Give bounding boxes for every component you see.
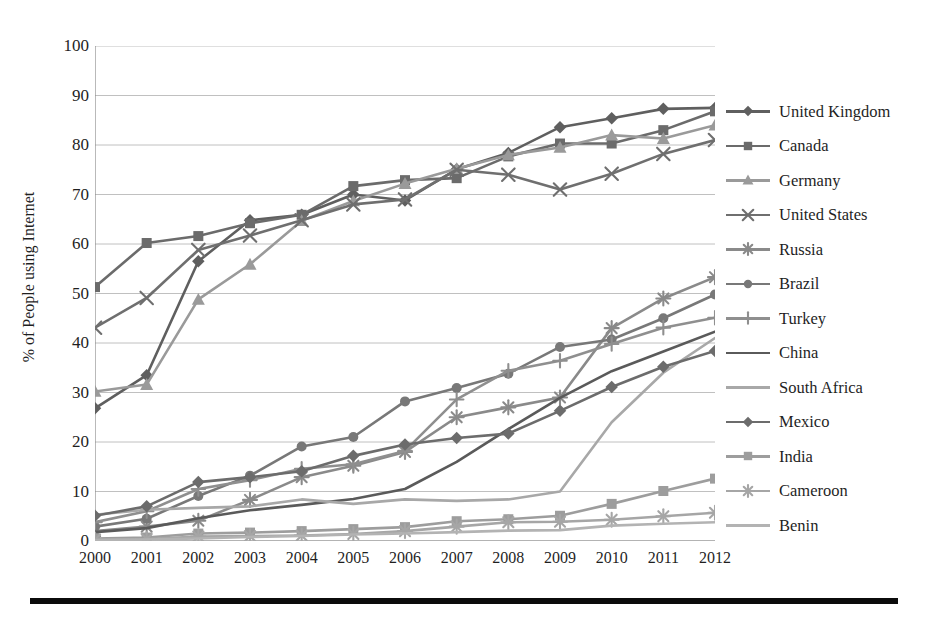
legend-item-mexico[interactable]: Mexico	[726, 405, 930, 440]
x-tick-label: 2008	[480, 548, 536, 568]
data-point-circle	[348, 432, 358, 442]
legend-item-label: Turkey	[779, 310, 826, 327]
x-tick-label: 2004	[274, 548, 330, 568]
legend-marker-star-icon	[739, 240, 757, 258]
data-point-diamond	[605, 381, 618, 394]
x-tick-label: 2009	[532, 548, 588, 568]
legend-item-label: United Kingdom	[779, 103, 890, 120]
data-point-circle	[297, 441, 307, 451]
data-point-square	[710, 106, 715, 116]
legend-item-brazil[interactable]: Brazil	[726, 267, 930, 302]
plot-area	[95, 46, 715, 541]
x-tick-label: 2012	[687, 548, 743, 568]
data-point-square	[607, 499, 617, 509]
legend-swatch-icon	[726, 139, 770, 153]
legend-item-south-africa[interactable]: South Africa	[726, 370, 930, 405]
legend-item-russia[interactable]: Russia	[726, 232, 930, 267]
data-point-square	[95, 282, 100, 292]
data-point-plus	[553, 354, 567, 368]
legend-marker-circle-icon	[739, 275, 757, 293]
legend-swatch-icon	[726, 277, 770, 291]
y-tick-label: 100	[43, 37, 89, 54]
x-tick-label: 2006	[377, 548, 433, 568]
data-point-square	[245, 218, 255, 228]
data-point-star	[708, 270, 715, 284]
data-point-triangle	[709, 119, 716, 131]
data-point-plus	[742, 313, 753, 324]
legend-item-label: Russia	[779, 241, 823, 258]
legend-item-label: Brazil	[779, 275, 819, 292]
legend-marker-x-icon	[739, 206, 757, 224]
data-point-diamond	[709, 345, 715, 358]
legend-marker-plus-icon	[739, 309, 757, 327]
data-point-circle	[555, 342, 565, 352]
data-point-square	[744, 142, 752, 150]
series-polyline	[95, 140, 715, 328]
legend-swatch-icon	[726, 208, 770, 222]
legend-item-benin[interactable]: Benin	[726, 508, 930, 543]
legend-item-label: Canada	[779, 137, 828, 154]
x-tick-label: 2000	[67, 548, 123, 568]
legend-item-canada[interactable]: Canada	[726, 129, 930, 164]
data-point-star	[501, 400, 515, 414]
legend-item-germany[interactable]: Germany	[726, 163, 930, 198]
y-axis-tick-labels: 1009080706050403020100	[35, 0, 89, 622]
legend-swatch-icon	[726, 518, 770, 532]
y-tick-label: 90	[43, 87, 89, 104]
legend-item-label: China	[779, 344, 818, 361]
data-point-star	[553, 515, 567, 529]
legend-swatch-icon	[726, 346, 770, 360]
data-point-star	[191, 514, 205, 528]
legend-marker-triangle-icon	[739, 171, 757, 189]
legend-swatch-icon	[726, 449, 770, 463]
legend-item-united-states[interactable]: United States	[726, 198, 930, 233]
x-tick-label: 2005	[325, 548, 381, 568]
data-point-diamond	[192, 476, 205, 489]
legend-item-india[interactable]: India	[726, 439, 930, 474]
legend-item-label: Benin	[779, 517, 818, 534]
legend-item-label: United States	[779, 206, 867, 223]
legend-marker-square-icon	[739, 447, 757, 465]
x-tick-label: 2003	[222, 548, 278, 568]
y-tick-label: 40	[43, 334, 89, 351]
data-point-circle	[400, 396, 410, 406]
legend-item-china[interactable]: China	[726, 336, 930, 371]
legend-item-cameroon[interactable]: Cameroon	[726, 474, 930, 509]
data-point-diamond	[743, 417, 754, 428]
legend-swatch-icon	[726, 380, 770, 394]
legend-marker-star-icon	[739, 482, 757, 500]
data-point-triangle	[192, 293, 205, 305]
data-point-star	[398, 524, 412, 538]
legend-swatch-icon	[726, 484, 770, 498]
data-point-star	[742, 485, 754, 497]
data-point-square	[142, 238, 152, 248]
data-point-square	[658, 486, 668, 496]
data-point-star	[243, 529, 257, 541]
y-tick-label: 30	[43, 384, 89, 401]
legend-item-turkey[interactable]: Turkey	[726, 301, 930, 336]
data-point-star	[501, 515, 515, 529]
legend-item-united-kingdom[interactable]: United Kingdom	[726, 94, 930, 129]
legend-item-label: Cameroon	[779, 482, 848, 499]
data-point-diamond	[554, 405, 567, 418]
data-point-diamond	[657, 103, 670, 115]
legend-swatch-icon	[726, 311, 770, 325]
x-tick-label: 2001	[119, 548, 175, 568]
series-line	[95, 345, 715, 522]
series-polyline	[95, 351, 715, 516]
data-point-plus	[657, 321, 671, 335]
data-point-x	[95, 321, 101, 334]
chart-legend: United KingdomCanadaGermanyUnited States…	[726, 94, 930, 543]
data-point-star	[708, 506, 715, 520]
legend-marker-square-icon	[739, 137, 757, 155]
data-point-triangle	[743, 175, 754, 185]
y-tick-label: 50	[43, 285, 89, 302]
data-point-diamond	[554, 121, 567, 133]
data-point-circle	[452, 383, 462, 393]
legend-swatch-icon	[726, 173, 770, 187]
data-point-circle	[744, 280, 752, 288]
data-point-square	[744, 452, 752, 460]
data-point-square	[710, 474, 715, 484]
gridlines	[95, 46, 715, 541]
series-line	[95, 506, 715, 541]
